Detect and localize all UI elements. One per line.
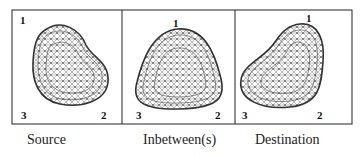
inbetween-vertex-2: 2 (215, 109, 221, 121)
source-mesh (33, 25, 108, 105)
caption-inbetween: Inbetween(s) (143, 132, 216, 148)
source-vertex-2: 2 (101, 109, 107, 121)
destination-mesh (241, 24, 324, 108)
caption-destination: Destination (255, 132, 320, 148)
destination-vertex-3: 3 (242, 109, 248, 121)
destination-vertex-1: 1 (306, 12, 312, 24)
inbetween-vertex-3: 3 (136, 109, 142, 121)
inbetween-vertex-1: 1 (173, 17, 179, 29)
inbetween-mesh (136, 29, 223, 109)
caption-source: Source (27, 132, 66, 148)
morph-figure: 1 2 3 1 2 3 1 2 3 (0, 0, 361, 130)
destination-vertex-2: 2 (317, 109, 323, 121)
source-vertex-3: 3 (21, 109, 27, 121)
source-vertex-1: 1 (20, 14, 26, 26)
